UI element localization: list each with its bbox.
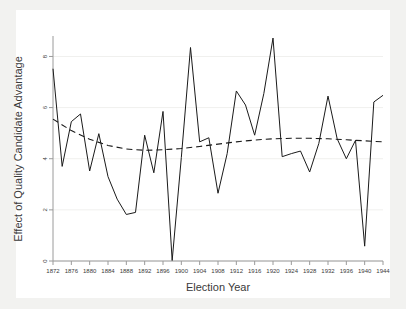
x-tick-label: 1880 (83, 268, 97, 274)
x-tick-label: 1936 (340, 268, 354, 274)
x-tick-label: 1920 (266, 268, 280, 274)
x-tick-label: 1912 (230, 268, 244, 274)
x-tick-label: 1888 (120, 268, 134, 274)
x-tick-label: 1924 (285, 268, 299, 274)
x-tick-label: 1900 (175, 268, 189, 274)
x-tick-label: 1896 (156, 268, 170, 274)
x-tick-label: 1940 (358, 268, 372, 274)
y-tick-label: 0 (42, 259, 48, 263)
y-tick-label: 2 (42, 208, 48, 212)
y-tick-label: 8 (42, 54, 48, 58)
y-axis-label: Effect of Quality Candidate Advantage (12, 56, 24, 242)
y-tick-label: 6 (42, 105, 48, 109)
x-tick-label: 1932 (321, 268, 335, 274)
x-tick-label: 1892 (138, 268, 152, 274)
data-series-line (53, 38, 383, 260)
x-tick-label: 1872 (46, 268, 60, 274)
x-tick-label: 1944 (376, 268, 390, 274)
x-axis: 1872187618801884188818921896190019041908… (46, 261, 390, 274)
x-axis-label: Election Year (186, 281, 251, 293)
x-tick-label: 1916 (248, 268, 262, 274)
chart-canvas: 02468 1872187618801884188818921896190019… (0, 0, 406, 309)
x-tick-label: 1904 (193, 268, 207, 274)
y-tick-label: 4 (42, 156, 48, 160)
x-tick-label: 1884 (101, 268, 115, 274)
gridlines (53, 56, 383, 261)
y-axis: 02468 (42, 36, 53, 263)
x-tick-label: 1928 (303, 268, 317, 274)
x-tick-label: 1876 (65, 268, 79, 274)
figure-frame: 02468 1872187618801884188818921896190019… (0, 0, 406, 309)
x-tick-label: 1908 (211, 268, 225, 274)
